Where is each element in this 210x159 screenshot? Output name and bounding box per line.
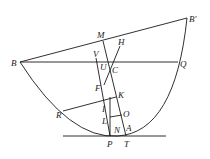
label-T: T: [124, 139, 130, 149]
parabola-diagram: B B′ M H V U C Q F K R I L O N A P T: [0, 0, 210, 159]
label-Bp: B′: [189, 14, 197, 24]
label-U: U: [100, 62, 107, 72]
label-C: C: [112, 65, 119, 75]
chord-BBp: [20, 18, 187, 62]
label-F: F: [94, 83, 101, 93]
label-K: K: [117, 90, 125, 100]
label-Q: Q: [180, 59, 187, 69]
label-N: N: [113, 125, 121, 135]
label-M: M: [96, 30, 105, 40]
line-RK: [63, 97, 116, 111]
label-A: A: [125, 123, 132, 133]
label-O: O: [123, 109, 130, 119]
line-LO: [110, 115, 122, 117]
label-B: B: [11, 58, 17, 68]
label-L: L: [101, 116, 107, 126]
label-H: H: [117, 37, 125, 47]
label-V: V: [93, 49, 100, 59]
label-P: P: [106, 139, 113, 149]
label-R: R: [55, 110, 62, 120]
